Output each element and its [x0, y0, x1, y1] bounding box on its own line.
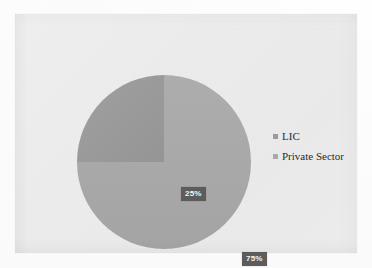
chart-panel: 25% 75% LIC Private Sector: [15, 14, 357, 253]
legend-label-lic: LIC: [282, 130, 300, 142]
legend-label-private-sector: Private Sector: [282, 150, 344, 162]
legend-item-private-sector[interactable]: Private Sector: [273, 150, 369, 162]
chart-legend: LIC Private Sector: [273, 130, 369, 170]
legend-swatch-icon-private-sector: [273, 154, 278, 159]
pie-slice-lic[interactable]: [77, 75, 164, 162]
data-label-private-sector: 75%: [242, 252, 267, 266]
pie-chart-svg: [77, 75, 251, 249]
pie-chart: 25% 75%: [77, 75, 251, 249]
page-background: 25% 75% LIC Private Sector: [0, 0, 372, 268]
legend-swatch-icon-lic: [273, 134, 278, 139]
data-label-lic: 25%: [181, 187, 206, 201]
legend-item-lic[interactable]: LIC: [273, 130, 369, 142]
